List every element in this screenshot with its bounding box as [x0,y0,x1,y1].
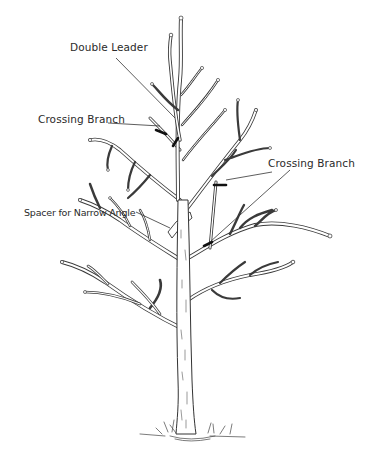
label-crossing-branch-left: Crossing Branch [38,114,125,125]
leader-line-spacer [136,212,170,228]
branches [62,18,330,330]
label-double-leader: Double Leader [70,42,148,53]
leader-line-crossing-right-b [210,170,290,242]
label-spacer-narrow-angle: Spacer for Narrow Angle [24,208,135,218]
tree-illustration [0,0,366,468]
leader-line-double-leader [116,58,175,118]
label-crossing-branch-right: Crossing Branch [268,158,355,169]
leader-line-crossing-right-a [226,172,272,180]
cut-mark-crossing-left [156,130,166,134]
trunk [176,200,196,434]
